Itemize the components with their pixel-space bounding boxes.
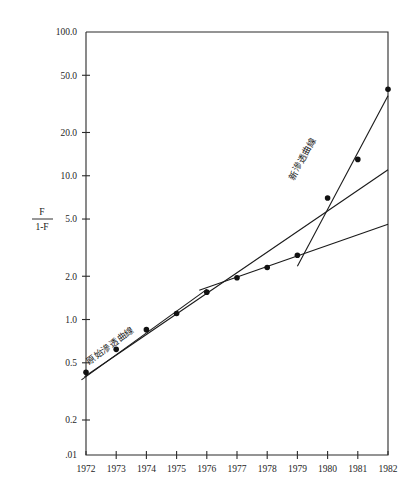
x-tick-label: 1980 [318, 464, 337, 474]
x-tick-label: 1977 [228, 464, 247, 474]
data-point [325, 195, 331, 201]
data-point [295, 252, 301, 258]
data-point [355, 157, 361, 163]
x-tick-label: 1972 [77, 464, 96, 474]
data-point [385, 86, 391, 92]
y-tick-label: 2.0 [65, 272, 77, 282]
data-point [174, 311, 180, 317]
y-axis-title-numerator: F [39, 207, 44, 217]
x-tick-label: 1979 [288, 464, 307, 474]
y-tick-label: 0.5 [65, 358, 77, 368]
x-tick-label: 1978 [258, 464, 277, 474]
y-tick-label: 20.0 [60, 128, 77, 138]
x-tick-label: 1975 [167, 464, 186, 474]
x-tick-label: 1973 [107, 464, 126, 474]
x-tick-label: 1981 [348, 464, 367, 474]
data-point [234, 275, 240, 281]
data-point [204, 289, 210, 295]
data-point [144, 327, 150, 333]
x-axis-ticklabels: 1972197319741975197619771978197919801981… [77, 464, 398, 474]
chart-svg: 100.050.020.010.05.02.01.00.50.2.01 1972… [0, 0, 410, 504]
y-tick-label: 0.2 [65, 415, 77, 425]
y-tick-label: .01 [65, 450, 77, 460]
y-tick-label: 100.0 [56, 27, 78, 37]
y-axis-title-denominator: 1-F [35, 222, 48, 232]
y-tick-label: 5.0 [65, 214, 77, 224]
data-point [264, 265, 270, 271]
y-tick-label: 1.0 [65, 315, 77, 325]
x-tick-label: 1974 [137, 464, 156, 474]
y-tick-label: 10.0 [60, 171, 77, 181]
y-tick-label: 50.0 [60, 71, 77, 81]
x-tick-label: 1982 [379, 464, 398, 474]
chart-figure: 100.050.020.010.05.02.01.00.50.2.01 1972… [0, 0, 410, 504]
x-tick-label: 1976 [197, 464, 216, 474]
data-point [83, 369, 89, 375]
